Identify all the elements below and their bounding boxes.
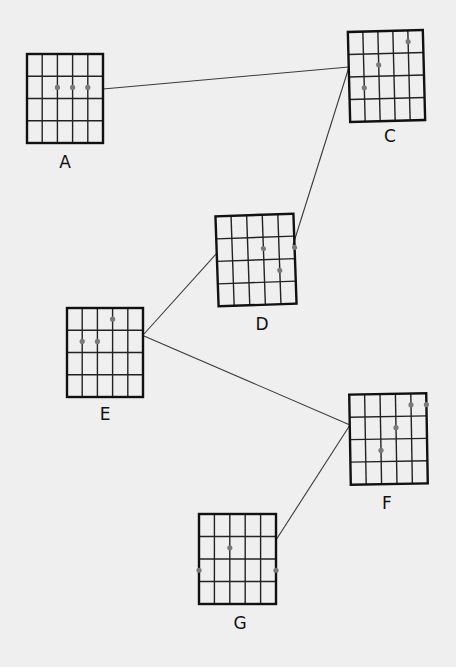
finger-dot-icon: [405, 39, 410, 44]
connector-e-d: [144, 253, 217, 334]
connector-e-f: [144, 336, 350, 425]
fret-line: [350, 416, 427, 417]
finger-dot-icon: [273, 568, 278, 573]
finger-dot-icon: [393, 425, 398, 430]
finger-dot-icon: [376, 62, 381, 67]
chord-label: A: [59, 152, 71, 172]
finger-dot-icon: [408, 402, 413, 407]
finger-dot-icon: [424, 402, 429, 407]
finger-dot-icon: [95, 339, 100, 344]
finger-dot-icon: [378, 448, 383, 453]
chord-diagram-e: [67, 308, 143, 397]
chord-diagram-g: [196, 514, 278, 604]
connector-f-g: [276, 425, 350, 540]
chord-diagram-f: [349, 393, 430, 484]
chord-label: G: [233, 613, 246, 633]
finger-dot-icon: [227, 545, 232, 550]
fret-line: [350, 461, 427, 462]
connector-lines: [103, 67, 350, 540]
chord-progression-diagram: ACDEFG: [0, 0, 456, 667]
finger-dot-icon: [277, 268, 282, 273]
chord-diagram-d: [215, 214, 299, 307]
finger-dot-icon: [110, 317, 115, 322]
finger-dot-icon: [292, 245, 297, 250]
chord-diagrams: ACDEFG: [27, 30, 430, 633]
fret-line: [348, 53, 423, 55]
finger-dot-icon: [261, 246, 266, 251]
connector-c-d: [293, 67, 349, 245]
finger-dot-icon: [55, 85, 60, 90]
finger-dot-icon: [70, 85, 75, 90]
chord-label: E: [100, 404, 111, 424]
fret-line: [349, 75, 424, 77]
finger-dot-icon: [362, 85, 367, 90]
chord-label: C: [384, 126, 396, 146]
chord-diagram-c: [348, 30, 425, 122]
chord-label: F: [382, 493, 392, 513]
fret-line: [217, 259, 295, 262]
chord-diagram-a: [27, 54, 103, 143]
finger-dot-icon: [196, 568, 201, 573]
fret-line: [350, 438, 427, 439]
finger-dot-icon: [85, 85, 90, 90]
fret-line: [218, 281, 296, 284]
connector-a-c: [103, 67, 349, 89]
chord-label: D: [255, 314, 268, 334]
fret-line: [350, 98, 425, 100]
fret-line: [216, 236, 294, 239]
finger-dot-icon: [80, 339, 85, 344]
